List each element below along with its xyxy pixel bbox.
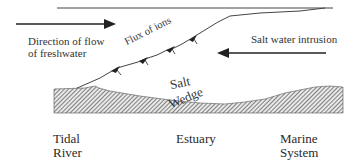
freshwater-flow-arrow	[16, 19, 116, 29]
salt-intrusion-arrow	[217, 48, 326, 58]
zone-label-marine-system: Marine System	[280, 132, 318, 160]
freshwater-label: Direction of flow of freshwater	[28, 35, 104, 59]
salt-wedge-diagram: Direction of flow of freshwater Flux of …	[0, 0, 359, 166]
salt-wedge-interface	[75, 8, 325, 89]
zone-label-estuary: Estuary	[176, 132, 216, 146]
freshwater-label-line1: Direction of flow	[28, 35, 104, 47]
freshwater-label-line2: of freshwater	[28, 47, 104, 59]
intrusion-label: Salt water intrusion	[251, 33, 337, 45]
zone-label-line1: Tidal	[53, 132, 82, 146]
zone-label-line2: River	[53, 146, 82, 160]
zone-label-line1: Marine	[280, 132, 318, 146]
zone-label-line1: Estuary	[176, 132, 216, 146]
zone-label-line2: System	[280, 146, 318, 160]
zone-label-tidal-river: Tidal River	[53, 132, 82, 160]
